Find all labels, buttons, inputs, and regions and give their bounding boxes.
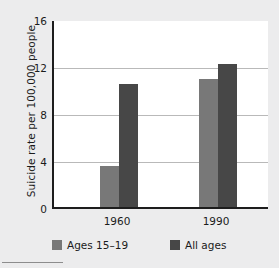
y-tick-label-0: 0 [17, 203, 47, 215]
legend-label-all-ages: All ages [185, 239, 226, 251]
x-tick-label-1960: 1960 [87, 215, 147, 227]
y-tick-label-12: 12 [17, 62, 47, 74]
bar-1990-all-ages[interactable] [218, 64, 237, 207]
x-tick-label-1990: 1990 [186, 215, 246, 227]
legend-swatch-icon-all-ages [170, 240, 180, 250]
bar-chart-figure: Suicide rate per 100,000 people 16 12 8 … [0, 0, 279, 268]
legend-entry-all-ages[interactable]: All ages [170, 239, 226, 251]
bar-1960-ages-15-19[interactable] [100, 166, 119, 207]
chart-legend: Ages 15–19 All ages [52, 239, 268, 255]
bar-1990-ages-15-19[interactable] [199, 79, 218, 207]
y-axis-line [52, 21, 54, 209]
plot-area [52, 21, 268, 209]
bar-1960-all-ages[interactable] [119, 84, 138, 207]
legend-entry-ages-15-19[interactable]: Ages 15–19 [52, 239, 128, 251]
footer-rule [2, 262, 63, 263]
y-tick-label-8: 8 [17, 109, 47, 121]
y-tick-label-4: 4 [17, 156, 47, 168]
legend-label-ages-15-19: Ages 15–19 [67, 239, 128, 251]
x-axis-line [52, 207, 268, 209]
legend-swatch-icon-ages-15-19 [52, 240, 62, 250]
y-tick-label-16: 16 [17, 15, 47, 27]
